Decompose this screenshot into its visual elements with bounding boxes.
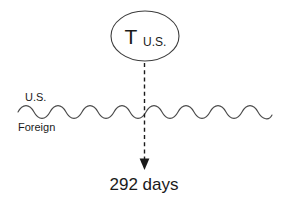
boundary-label-below: Foreign — [18, 121, 55, 133]
boundary-label-above: U.S. — [25, 91, 46, 103]
node-main-label: T — [125, 25, 138, 48]
node-sub-label: U.S. — [143, 35, 166, 49]
arrow-head-icon — [140, 159, 150, 171]
diagram-canvas: T U.S. U.S. Foreign 292 days — [0, 0, 283, 204]
duration-label: 292 days — [110, 175, 179, 194]
diagram-svg: T U.S. U.S. Foreign 292 days — [0, 0, 283, 204]
